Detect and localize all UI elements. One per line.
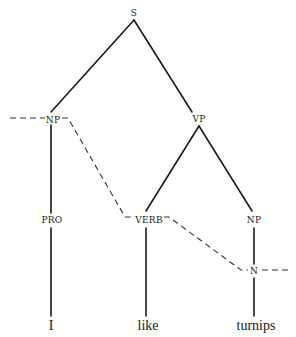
word-i: I [49,319,54,333]
edge-vp-np [199,126,252,211]
node-np-object: NP [247,216,262,225]
node-s: S [131,9,137,18]
syntax-tree-diagram: S NP VP PRO VERB NP N I like turnips [0,0,296,337]
node-vp: VP [192,115,205,124]
node-pro: PRO [41,216,62,225]
node-np-subject: NP [46,116,61,125]
node-n: N [250,267,258,276]
edge-s-np [51,20,134,112]
edge-s-vp [134,20,192,112]
dashed-link-verb-n [164,217,248,270]
word-turnips: turnips [237,319,276,333]
dashed-link-np-verb [62,118,133,217]
node-verb: VERB [135,216,163,225]
word-like: like [138,319,159,333]
tree-edges [0,0,296,337]
edge-vp-verb [146,126,199,211]
